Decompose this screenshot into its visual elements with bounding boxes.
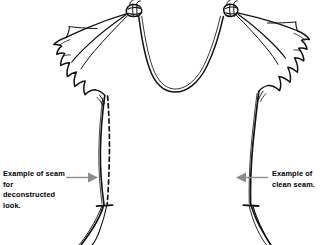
clean-seam-label: Example of clean seam. (272, 169, 332, 190)
deconstructed-seam-label: Example of seam for deconstructed look. (3, 169, 65, 211)
